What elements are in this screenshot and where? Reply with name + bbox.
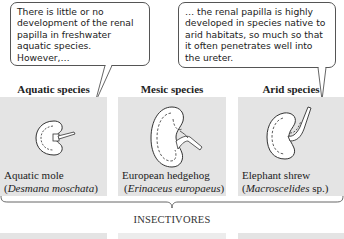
callout-aquatic: There is little or no development of the… <box>10 2 150 66</box>
scientific-name-aquatic-text: Desmana moschata <box>8 182 94 194</box>
common-name-mesic: European hedgehog <box>122 169 210 181</box>
heading-mesic: Mesic species <box>118 83 226 95</box>
lower-panel-3 <box>238 233 344 239</box>
common-name-aquatic: Aquatic mole <box>4 169 64 181</box>
kidney-aquatic-icon <box>30 115 90 165</box>
group-label: INSECTIVORES <box>0 214 344 225</box>
kidney-mesic-icon <box>146 103 216 173</box>
kidney-arid-icon <box>262 103 332 173</box>
group-brace-icon <box>0 196 344 216</box>
callout-arid: … the renal papilla is highly developed … <box>178 2 336 68</box>
callout-aquatic-text: There is little or no development of the… <box>17 6 134 63</box>
heading-arid: Arid species <box>238 83 344 95</box>
heading-aquatic: Aquatic species <box>0 83 107 95</box>
common-name-arid: Elephant shrew <box>242 169 310 181</box>
scientific-name-aquatic: (Desmana moschata) <box>4 182 98 194</box>
scientific-name-arid: (Macroscelides sp.) <box>242 182 328 194</box>
lower-panel-2 <box>118 233 226 239</box>
scientific-name-mesic: (Erinaceus europaeus) <box>124 182 224 194</box>
callout-arid-text: … the renal papilla is highly developed … <box>185 6 325 63</box>
scientific-name-arid-text: Macroscelides <box>246 182 310 194</box>
lower-panel-1 <box>0 233 107 239</box>
scientific-name-mesic-text: Erinaceus europaeus <box>128 182 221 194</box>
